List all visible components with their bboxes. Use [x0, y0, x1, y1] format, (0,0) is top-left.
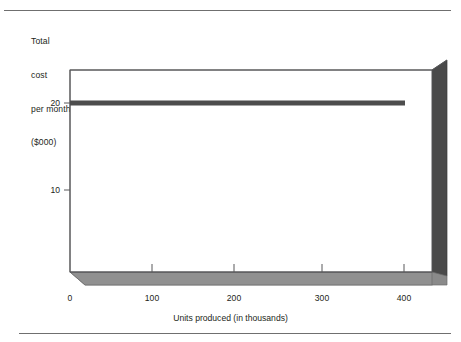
plot-right-wall: [432, 60, 447, 285]
x-tick-label-0: 0: [54, 293, 86, 303]
chart-svg: [0, 0, 461, 342]
plot-floor-bevel: [70, 272, 432, 285]
x-tick-label-300: 300: [306, 293, 338, 303]
x-tick-label-400: 400: [388, 293, 420, 303]
y-tick-label-10: 10: [38, 185, 60, 195]
y-tick-label-20: 20: [38, 98, 60, 108]
x-tick-label-200: 200: [218, 293, 250, 303]
plot-back-wall: [70, 70, 432, 272]
plot-area: [0, 0, 461, 342]
x-axis-title: Units produced (in thousands): [0, 313, 461, 323]
x-tick-label-100: 100: [136, 293, 168, 303]
bottom-divider-rule: [19, 333, 451, 334]
figure: Total cost per month ($000): [0, 0, 461, 342]
